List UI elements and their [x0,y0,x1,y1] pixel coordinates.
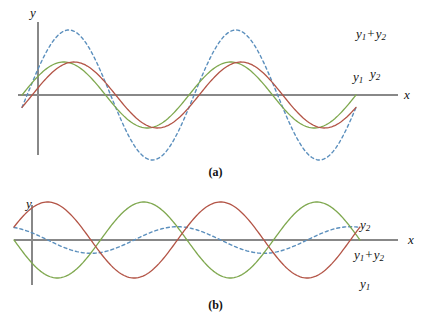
panel-a-constructive-interference: y x y1+y2 y1 y2 (a) [0,0,431,185]
curve-label-y1-b: y1 [360,277,370,290]
curve-label-sum-b: y1+y2 [354,248,384,261]
caption-b: (b) [0,299,431,311]
curve-label-sum-a-text: y1+y2 [356,26,386,41]
curve-label-y2-a: y2 [370,67,380,80]
curve-label-y2-b: y2 [360,218,370,231]
caption-a: (a) [0,166,431,178]
curve-label-sum-a: y1+y2 [356,27,386,40]
curve-label-y1-a: y1 [353,70,363,83]
panel-b-destructive-interference: y x y2 y1+y2 y1 (b) [0,185,431,323]
wave-interference-figure: y x y1+y2 y1 y2 (a) y x y [0,0,431,323]
x-axis-label-a: x [404,88,410,101]
x-axis-label-b: x [408,233,414,246]
y-axis-label-a: y [30,6,36,19]
y-axis-label-b: y [26,197,32,210]
